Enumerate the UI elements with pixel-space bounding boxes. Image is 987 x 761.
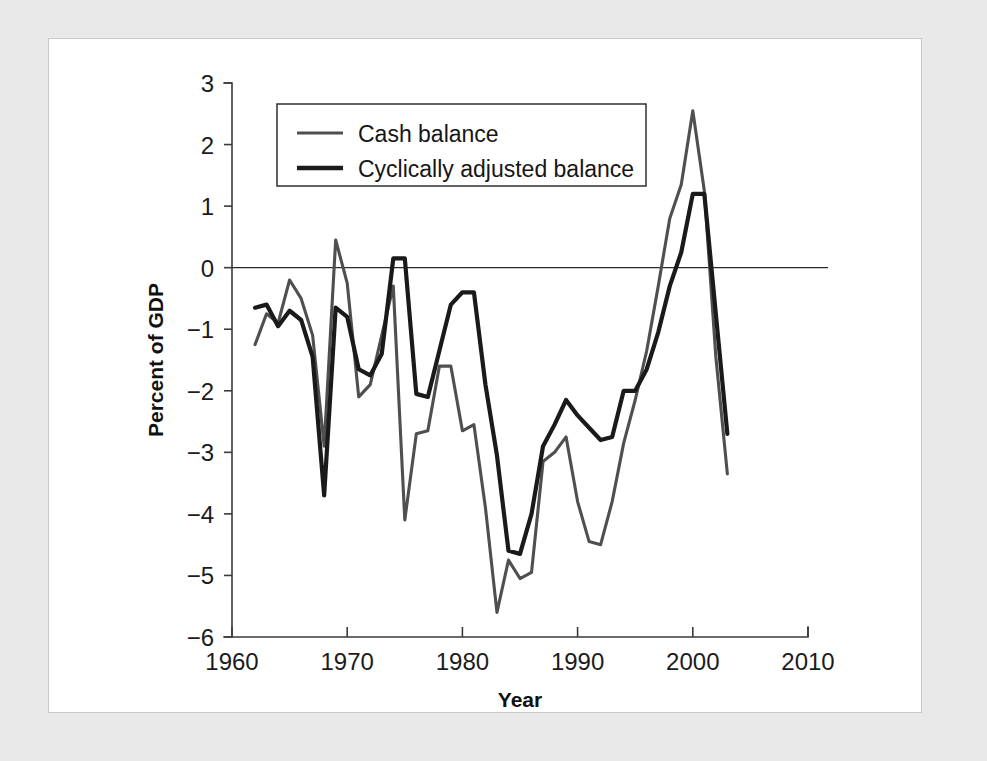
x-tick-label: 1970 bbox=[321, 648, 374, 675]
x-axis-ticks bbox=[232, 627, 808, 637]
y-tick-label: −4 bbox=[187, 501, 214, 528]
y-tick-label: −6 bbox=[187, 624, 214, 651]
x-axis-line bbox=[232, 627, 808, 637]
x-tick-label: 2000 bbox=[666, 648, 719, 675]
chart-surface: 3210−1−2−3−4−5−6 19601970198019902000201… bbox=[0, 0, 987, 761]
x-axis-tick-labels: 196019701980199020002010 bbox=[205, 648, 834, 675]
x-tick-label: 1990 bbox=[551, 648, 604, 675]
y-axis-tick-labels: 3210−1−2−3−4−5−6 bbox=[187, 70, 214, 651]
line-chart: 3210−1−2−3−4−5−6 19601970198019902000201… bbox=[0, 0, 987, 761]
y-tick-label: 1 bbox=[201, 193, 214, 220]
legend-label-cash-balance: Cash balance bbox=[358, 121, 499, 147]
y-tick-label: 3 bbox=[201, 70, 214, 97]
y-axis-line bbox=[224, 83, 232, 637]
chart-legend: Cash balance Cyclically adjusted balance bbox=[277, 104, 646, 186]
x-tick-label: 1980 bbox=[436, 648, 489, 675]
figure-root: 3210−1−2−3−4−5−6 19601970198019902000201… bbox=[0, 0, 987, 761]
y-tick-label: −1 bbox=[187, 316, 214, 343]
y-tick-label: 0 bbox=[201, 255, 214, 282]
y-tick-label: −5 bbox=[187, 562, 214, 589]
y-tick-label: 2 bbox=[201, 132, 214, 159]
x-tick-label: 1960 bbox=[205, 648, 258, 675]
y-tick-label: −3 bbox=[187, 439, 214, 466]
y-tick-label: −2 bbox=[187, 378, 214, 405]
y-axis-ticks bbox=[224, 83, 232, 637]
legend-label-cyclically-adjusted-balance: Cyclically adjusted balance bbox=[358, 156, 634, 182]
y-axis-title: Percent of GDP bbox=[144, 283, 167, 437]
x-axis-title: Year bbox=[498, 688, 542, 711]
x-tick-label: 2010 bbox=[781, 648, 834, 675]
series-cyclically-adjusted-balance bbox=[255, 194, 727, 554]
